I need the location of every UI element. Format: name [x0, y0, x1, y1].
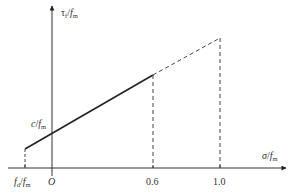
solid-line-segment [25, 75, 153, 149]
diagram-canvas [0, 0, 292, 194]
tick-label-1.0: 1.0 [213, 177, 226, 187]
dashed-line-segment [153, 38, 220, 75]
fd-label: fd/fm [14, 177, 31, 189]
origin-label: O [48, 177, 55, 187]
x-axis-label: σ/fm [262, 151, 278, 163]
intercept-label: c/fm [31, 119, 46, 131]
tick-label-0.6: 0.6 [146, 177, 159, 187]
y-axis-label: τf/fm [61, 8, 78, 20]
